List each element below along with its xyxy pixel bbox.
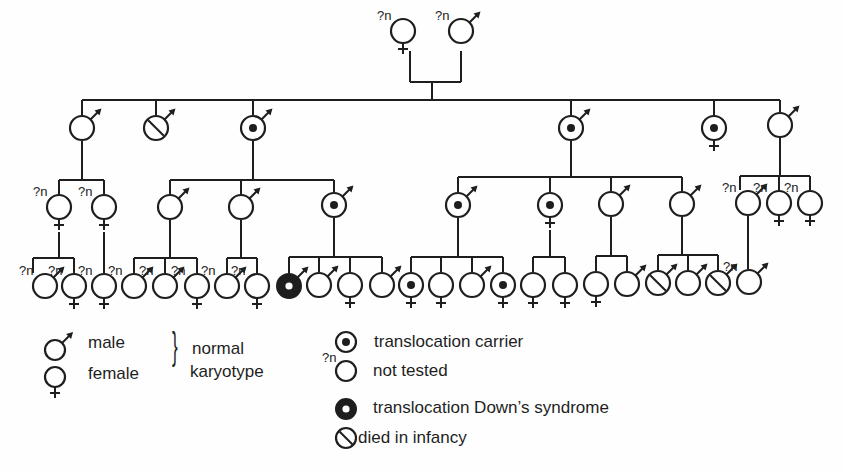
carrier-dot-icon [407, 281, 415, 289]
individual-female-carrier [702, 116, 726, 151]
person-circle-icon [92, 195, 116, 219]
individual-male-normal [615, 265, 646, 296]
legend-brace: } [172, 322, 178, 370]
person-circle-icon [584, 272, 608, 296]
individual-male-died [646, 264, 677, 295]
pedigree-lines [33, 51, 810, 273]
individual-male-normal [229, 188, 260, 219]
legend-downs-label: translocation Down’s syndrome [373, 398, 609, 418]
carrier-dot-icon [567, 124, 575, 132]
individual-male-carrier [241, 109, 272, 140]
person-circle-icon [676, 271, 700, 295]
not-tested-mark: ?n [753, 180, 767, 195]
not-tested-mark: ?n [108, 263, 122, 278]
individual-symbol-not_tested: ?n [322, 350, 356, 381]
individual-male-normal [768, 106, 799, 137]
individual-male-not_tested: ?n [723, 259, 768, 294]
individual-female-not_tested: ?n [33, 184, 71, 230]
person-circle-icon [460, 273, 484, 297]
individual-symbol-downs [336, 399, 356, 419]
not-tested-mark: ?n [48, 263, 62, 278]
generation-III: ?n?n?n?n?n [33, 180, 822, 230]
person-circle-icon [370, 273, 394, 297]
individual-male-carrier [559, 109, 590, 140]
not-tested-mark: ?n [19, 263, 33, 278]
generation-IV: ?n?n?n?n?n?n?n?n?n [19, 259, 768, 309]
legend-normal-label: normal [192, 339, 244, 359]
person-circle-icon [599, 192, 623, 216]
not-tested-mark: ?n [78, 263, 92, 278]
individual-male-normal [460, 266, 491, 297]
individual-female-normal [338, 273, 362, 308]
individual-male-died [144, 109, 175, 140]
person-circle-icon [449, 19, 473, 43]
carrier-dot-icon [330, 201, 338, 209]
legend-karyotype-label: karyotype [190, 362, 264, 382]
individual-male-downs [277, 267, 308, 298]
individual-symbol-carrier [336, 332, 356, 352]
person-circle-icon [70, 116, 94, 140]
individual-female-normal [429, 273, 453, 308]
person-circle-icon [307, 273, 331, 297]
person-circle-icon [521, 273, 545, 297]
legend-carrier-label: translocation carrier [374, 332, 523, 352]
not-tested-mark: ?n [139, 263, 153, 278]
legend-died-label: died in infancy [358, 428, 467, 448]
person-circle-icon [429, 273, 453, 297]
person-circle-icon [158, 195, 182, 219]
person-circle-icon [737, 270, 761, 294]
person-circle-icon [553, 273, 577, 297]
person-circle-icon [798, 191, 822, 215]
individual-female-normal [553, 273, 577, 308]
generation-I: ?n?n [377, 8, 480, 54]
person-circle-icon [45, 340, 65, 360]
person-circle-icon [615, 272, 639, 296]
person-circle-icon [768, 113, 792, 137]
person-circle-icon [391, 19, 415, 43]
not-tested-mark: ?n [78, 184, 92, 199]
not-tested-mark: ?n [231, 263, 245, 278]
generation-II [70, 106, 799, 151]
not-tested-mark: ?n [435, 8, 449, 23]
not-tested-mark: ?n [723, 259, 737, 274]
legend-male-label: male [88, 333, 125, 353]
carrier-dot-icon [249, 124, 257, 132]
individual-female-normal [584, 272, 608, 307]
individual-male-not_tested: ?n [435, 8, 480, 43]
pedigree-diagram: ?n?n?n?n?n?n?n?n?n?n?n?n?n?n?n?n?n male … [0, 0, 844, 473]
legend-female-label: female [88, 364, 139, 384]
individual-male-normal [599, 185, 630, 216]
person-circle-icon [338, 273, 362, 297]
individual-female-carrier [491, 273, 515, 308]
person-circle-icon [229, 195, 253, 219]
person-circle-icon [45, 367, 65, 387]
legend-not-tested-label: not tested [373, 361, 448, 381]
individual-female-normal [521, 273, 545, 308]
person-circle-icon [336, 361, 356, 381]
individual-male-normal [370, 266, 401, 297]
carrier-dot-icon [454, 201, 462, 209]
individual-symbol-died [336, 428, 356, 448]
not-tested-mark: ?n [784, 180, 798, 195]
individual-male-carrier [446, 186, 477, 217]
carrier-dot-icon [546, 201, 554, 209]
individual-male-normal [70, 109, 101, 140]
not-tested-mark: ?n [171, 263, 185, 278]
not-tested-mark: ?n [322, 350, 336, 365]
person-circle-icon [47, 195, 71, 219]
individual-female-normal [45, 367, 65, 398]
individual-male-normal [670, 185, 701, 216]
not-tested-mark: ?n [377, 8, 391, 23]
individual-male-normal [676, 264, 707, 295]
carrier-dot-icon [499, 281, 507, 289]
individual-male-normal [45, 332, 73, 360]
individual-female-carrier [399, 273, 423, 308]
individual-female-not_tested: ?n [377, 8, 415, 54]
not-tested-mark: ?n [201, 263, 215, 278]
individual-male-carrier [322, 186, 353, 217]
carrier-dot-icon [342, 338, 350, 346]
individual-male-normal [158, 188, 189, 219]
carrier-dot-icon [710, 124, 718, 132]
individual-female-carrier [538, 193, 562, 228]
individual-female-not_tested: ?n [78, 184, 116, 230]
